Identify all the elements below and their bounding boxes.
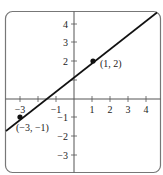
x-tick-label: −3 xyxy=(15,104,26,115)
y-tick-label: −2 xyxy=(57,131,68,142)
y-tick-label: −1 xyxy=(57,112,68,123)
x-tick-label: 1 xyxy=(90,104,95,115)
y-tick-label: 3 xyxy=(63,37,68,48)
line-chart: −3 −1 1 2 3 4 4 3 2 −1 −2 −3 (1, 2) (−3,… xyxy=(0,0,163,175)
point-neg3-neg1 xyxy=(17,114,22,119)
x-tick-label: 3 xyxy=(126,104,131,115)
plot-frame xyxy=(6,12,161,173)
y-tick-label: 4 xyxy=(63,19,68,30)
y-tick-label: −3 xyxy=(57,150,68,161)
x-tick-label: 4 xyxy=(144,104,149,115)
x-tick-label: 2 xyxy=(108,104,113,115)
y-tick-label: 2 xyxy=(63,56,68,67)
point-label-neg3-neg1: (−3, −1) xyxy=(16,122,49,134)
data-line xyxy=(6,13,157,132)
point-1-2 xyxy=(90,58,95,63)
point-label-1-2: (1, 2) xyxy=(100,58,122,70)
